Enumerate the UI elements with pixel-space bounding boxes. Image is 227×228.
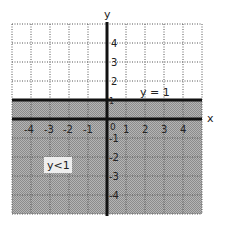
boundary-label: y = 1: [140, 86, 170, 99]
x-axis-label: x: [207, 112, 214, 125]
svg-text:-2: -2: [63, 124, 73, 135]
svg-text:4: 4: [180, 124, 186, 135]
svg-text:-1: -1: [109, 133, 119, 144]
svg-text:2: 2: [142, 124, 148, 135]
svg-text:1: 1: [123, 124, 129, 135]
svg-text:4: 4: [111, 38, 117, 49]
svg-text:-3: -3: [44, 124, 54, 135]
y-axis-label: y: [104, 8, 111, 21]
svg-text:-4: -4: [24, 124, 34, 135]
svg-text:-3: -3: [109, 171, 119, 182]
svg-text:1: 1: [109, 97, 114, 106]
svg-text:0: 0: [110, 122, 116, 132]
svg-text:-2: -2: [109, 152, 119, 163]
svg-text:-4: -4: [109, 190, 119, 201]
svg-text:3: 3: [161, 124, 167, 135]
svg-text:-1: -1: [83, 124, 93, 135]
region-label: y<1: [47, 159, 70, 172]
inequality-graph: y x -4 -3 -2 -1 0 1 2 3 4 4 3 2 1 -1 -2 …: [0, 0, 227, 228]
svg-text:3: 3: [111, 57, 117, 68]
svg-text:2: 2: [111, 76, 117, 87]
